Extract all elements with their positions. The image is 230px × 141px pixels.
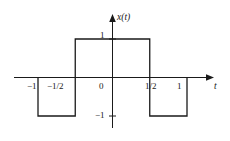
x-tick-label-one-half: 1/2 [145, 82, 157, 91]
x-tick-label-one: 1 [177, 82, 182, 91]
x-axis-label: t [214, 82, 217, 92]
y-axis [109, 14, 116, 128]
y-tick-label-minus-one: −1 [95, 111, 105, 120]
x-tick-label-zero: 0 [99, 82, 104, 91]
x-tick-label-minus-one: −1 [27, 82, 37, 91]
signal-plot-figure: −1 −1/2 0 1/2 1 1 −1 x(t) t [0, 0, 230, 141]
x-tick-label-minus-one-half: −1/2 [47, 82, 64, 91]
y-tick-label-one: 1 [100, 31, 105, 40]
y-axis-arrowhead [109, 14, 116, 22]
x-axis-arrowhead [206, 74, 214, 81]
y-axis-label: x(t) [117, 13, 130, 23]
plot-canvas [0, 0, 230, 141]
x-axis [14, 74, 214, 81]
